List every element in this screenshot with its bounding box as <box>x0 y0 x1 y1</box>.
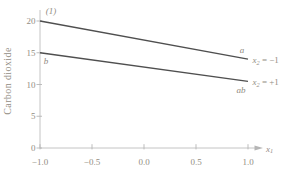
labels-group: (1)ax2 = −1babx2 = +1 <box>44 6 279 95</box>
y-axis-title: Carbon dioxide <box>2 47 13 115</box>
point-label: ab <box>237 85 247 95</box>
y-tick-label: 20 <box>27 16 37 26</box>
chart-svg: x1 −1.0−0.50.00.51.005101520 (1)ax2 = −1… <box>0 0 302 177</box>
x-tick-label: −0.5 <box>84 157 101 167</box>
x-tick-label: −1.0 <box>32 157 49 167</box>
ticks-group: −1.0−0.50.00.51.005101520 <box>27 16 255 167</box>
series-annotation: x2 = +1 <box>252 77 279 88</box>
point-label: a <box>240 45 245 55</box>
interaction-plot-figure: x1 −1.0−0.50.00.51.005101520 (1)ax2 = −1… <box>0 0 302 177</box>
point-label: (1) <box>46 6 57 16</box>
y-tick-label: 10 <box>27 80 37 90</box>
y-tick-label: 0 <box>31 143 36 153</box>
x-tick-label: 0.5 <box>190 157 202 167</box>
x-tick-label: 0.0 <box>138 157 150 167</box>
point-label: b <box>44 56 49 66</box>
x-axis-arrow-icon <box>255 145 264 150</box>
series-line-1 <box>40 53 248 82</box>
axes-group: x1 <box>40 10 273 154</box>
x-axis-title: x1 <box>265 144 273 155</box>
x-tick-label: 1.0 <box>242 157 254 167</box>
series-group <box>40 21 248 81</box>
series-line-0 <box>40 21 248 59</box>
y-tick-label: 15 <box>27 48 37 58</box>
y-tick-label: 5 <box>31 111 36 121</box>
series-annotation: x2 = −1 <box>252 55 279 66</box>
